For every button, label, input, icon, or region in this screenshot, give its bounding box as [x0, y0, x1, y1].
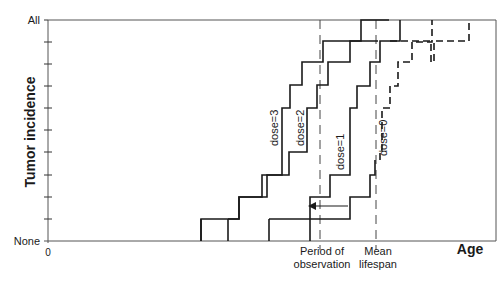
mean-label-1: Mean: [364, 245, 392, 257]
dose-0-label: dose=0: [377, 120, 389, 156]
dose-3-label: dose=3: [268, 110, 280, 146]
y-axis-title: Tumor incidence: [22, 76, 38, 187]
period-label-2: observation: [294, 258, 351, 270]
y-bottom-label: None: [14, 235, 40, 247]
mean-label-2: lifespan: [359, 258, 397, 270]
x-axis-title: Age: [457, 241, 484, 257]
period-label-1: Period of: [300, 245, 345, 257]
y-top-label: All: [28, 14, 40, 26]
dose-1-label: dose=1: [334, 134, 346, 170]
chart: All None 0 Tumor incidence Age Period of…: [0, 0, 499, 285]
dose-2-label: dose=2: [294, 110, 306, 146]
x-origin-label: 0: [45, 247, 51, 258]
